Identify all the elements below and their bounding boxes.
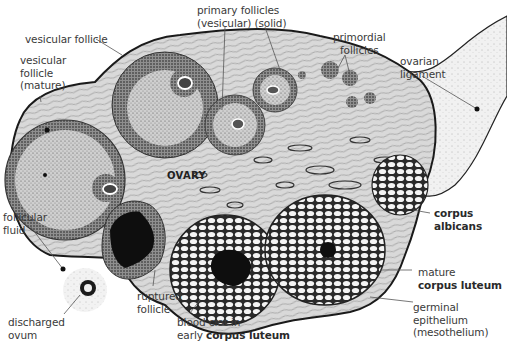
primordial-follicle [346,96,358,108]
label-ruptured-follicle: ruptured follicle [137,290,182,315]
label-ovarian-ligament: ovarian ligament [400,55,446,80]
primordial-follicle [364,92,376,104]
label-germinal-epithelium: germinal epithelium (mesothelium) [413,301,488,339]
label-discharged-ovum: discharged ovum [8,316,65,341]
discharged-ovum [63,268,107,312]
label-vesicular-follicle: vesicular follicle [25,33,108,46]
ovary-diagram: OVARY vesicular follicle vesicular folli… [0,0,507,343]
corpus-albicans [372,155,428,215]
oocyte [103,184,117,194]
label-vesicular-follicle-mature: vesicular follicle (mature) [20,54,66,92]
primordial-follicle [298,71,306,79]
label-primordial-follicles: primordial follicles [333,31,386,56]
ovary-label: OVARY [167,170,206,181]
label-mature-corpus-luteum: mature corpus luteum [418,266,502,291]
label-follicular-fluid: follicular fluid [3,211,47,236]
label-corpus-albicans: corpus albicans [434,207,482,232]
ovary-illustration [0,0,507,343]
primordial-follicle [321,61,339,79]
label-blood-clot: blood clot in early corpus luteum [177,316,290,341]
primordial-follicle [342,70,358,86]
label-primary-follicles: primary follicles (vesicular) (solid) [197,4,286,29]
